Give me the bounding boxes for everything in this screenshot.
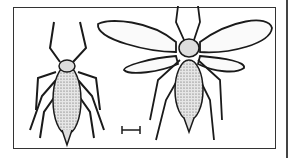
- winged-aphid: [98, 6, 272, 140]
- scale-bar: [122, 126, 140, 134]
- aphid-illustration: [0, 0, 294, 158]
- wingless-aphid: [30, 22, 104, 145]
